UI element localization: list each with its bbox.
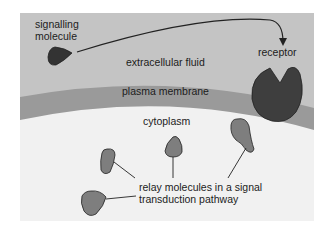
relay-molecules-label-line1: relay molecules in a signal [139,181,262,193]
signalling-molecule-label-line2: molecule [35,30,77,42]
cytoplasm-label: cytoplasm [143,115,191,127]
signalling-molecule-label-line1: signalling [35,18,79,30]
plasma-membrane-label: plasma membrane [122,85,209,97]
signal-transduction-diagram: extracellular fluid plasma membrane cyto… [0,0,334,234]
receptor-label: receptor [258,46,297,58]
relay-molecules-label-line2: transduction pathway [139,193,239,205]
extracellular-fluid-label: extracellular fluid [126,56,205,68]
